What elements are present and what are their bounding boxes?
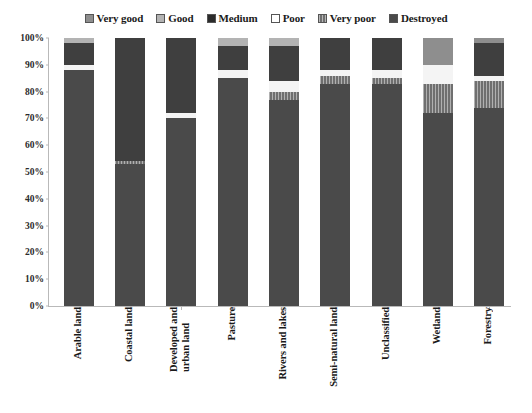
bar-segment-destroyed[interactable] (64, 70, 94, 306)
y-axis-tick-label: 50% (25, 167, 44, 177)
y-axis-tick-label: 60% (25, 140, 44, 150)
legend-item-verypoor[interactable]: Very poor (318, 13, 376, 24)
y-axis-tick-mark (46, 225, 49, 226)
y-axis-tick-mark (46, 172, 49, 173)
bar-segment-destroyed[interactable] (320, 84, 350, 306)
y-axis-tick-label: 100% (20, 33, 44, 43)
bar-segment-poor[interactable] (269, 81, 299, 92)
y-axis-tick-mark (46, 38, 49, 39)
x-axis-category-label: Semi-natural land (319, 307, 349, 387)
x-axis-category-text: Pasture (226, 307, 238, 341)
plot-area: 100%90%80%70%60%50%40%30%20%10%0% (48, 38, 511, 307)
x-axis-labels: Arable landCoastal landDeveloped and urb… (48, 307, 510, 413)
y-axis-tick-label: 90% (25, 60, 44, 70)
legend-label: Very poor (330, 13, 376, 24)
x-axis-category-text: Forestry (482, 307, 494, 345)
legend-item-medium[interactable]: Medium (207, 13, 258, 24)
y-axis-tick-mark (46, 252, 49, 253)
legend-swatch-poor-icon (271, 14, 280, 23)
bar-segment-destroyed[interactable] (115, 164, 145, 306)
bar-column[interactable] (218, 38, 248, 306)
legend-item-good[interactable]: Good (156, 13, 193, 24)
bar-segment-verypoor[interactable] (423, 84, 453, 113)
x-axis-category-label: Unclassified (371, 307, 401, 360)
bar-segment-destroyed[interactable] (423, 113, 453, 306)
legend-item-verygood[interactable]: Very good (85, 13, 144, 24)
legend-swatch-good-icon (156, 14, 165, 23)
bar-segment-verygood[interactable] (423, 38, 453, 65)
y-axis-tick-mark (46, 198, 49, 199)
legend-swatch-destroyed-icon (389, 14, 398, 23)
x-axis-category-text: Arable land (72, 307, 84, 359)
bar-segment-verypoor[interactable] (269, 92, 299, 100)
x-axis-category-label: Rivers and lakes (268, 307, 298, 380)
legend-item-destroyed[interactable]: Destroyed (389, 13, 448, 24)
legend-item-poor[interactable]: Poor (271, 13, 305, 24)
bar-column[interactable] (269, 38, 299, 306)
bar-column[interactable] (115, 38, 145, 306)
bar-column[interactable] (320, 38, 350, 306)
x-axis-category-label: Arable land (63, 307, 93, 359)
legend-label: Destroyed (401, 13, 448, 24)
x-axis-category-label: Wetland (422, 307, 452, 344)
chart-legend: Very goodGoodMediumPoorVery poorDestroye… (0, 13, 532, 24)
y-axis-tick-mark (46, 145, 49, 146)
bar-segment-destroyed[interactable] (166, 118, 196, 306)
x-axis-category-text: Developed and urban land (168, 307, 192, 372)
y-axis-tick-mark (46, 118, 49, 119)
y-axis-tick-label: 70% (25, 113, 44, 123)
bar-segment-medium[interactable] (218, 46, 248, 70)
bar-segment-poor[interactable] (372, 70, 402, 78)
y-axis-tick-mark (46, 279, 49, 280)
y-axis-tick-mark (46, 91, 49, 92)
bar-segment-medium[interactable] (320, 38, 350, 70)
y-axis-tick-mark (46, 64, 49, 65)
bar-segment-poor[interactable] (423, 65, 453, 84)
bar-segment-medium[interactable] (115, 38, 145, 161)
bar-segment-medium[interactable] (166, 38, 196, 113)
bar-segment-medium[interactable] (64, 43, 94, 64)
bar-segment-destroyed[interactable] (372, 84, 402, 306)
legend-label: Poor (283, 13, 305, 24)
bar-column[interactable] (166, 38, 196, 306)
bar-segment-poor[interactable] (218, 70, 248, 78)
y-axis-tick-label: 40% (25, 194, 44, 204)
bar-segment-good[interactable] (218, 38, 248, 46)
bar-column[interactable] (423, 38, 453, 306)
bar-segment-medium[interactable] (474, 43, 504, 75)
legend-swatch-medium-icon (207, 14, 216, 23)
y-axis-tick-label: 20% (25, 247, 44, 257)
legend-label: Medium (219, 13, 258, 24)
bar-segment-verypoor[interactable] (474, 81, 504, 108)
y-axis-tick-label: 80% (25, 87, 44, 97)
bar-segment-good[interactable] (269, 38, 299, 46)
x-axis-category-label: Forestry (473, 307, 503, 345)
x-axis-category-text: Semi-natural land (328, 307, 340, 387)
x-axis-category-label: Pasture (217, 307, 247, 341)
bar-segment-destroyed[interactable] (218, 78, 248, 306)
bar-segment-medium[interactable] (269, 46, 299, 81)
bar-segment-destroyed[interactable] (269, 100, 299, 306)
x-axis-category-label: Developed and urban land (165, 307, 195, 372)
x-axis-category-text: Rivers and lakes (277, 307, 289, 380)
bar-segment-destroyed[interactable] (474, 108, 504, 306)
x-axis-category-text: Unclassified (380, 307, 392, 360)
legend-swatch-verygood-icon (85, 14, 94, 23)
y-axis-tick-label: 10% (25, 274, 44, 284)
bar-column[interactable] (372, 38, 402, 306)
stacked-bar-chart: Very goodGoodMediumPoorVery poorDestroye… (0, 0, 532, 413)
x-axis-category-text: Coastal land (123, 307, 135, 362)
legend-label: Good (168, 13, 193, 24)
bar-segment-verypoor[interactable] (320, 76, 350, 84)
y-axis-tick-label: 30% (25, 221, 44, 231)
bar-column[interactable] (474, 38, 504, 306)
bar-column[interactable] (64, 38, 94, 306)
x-axis-category-text: Wetland (431, 307, 443, 344)
x-axis-category-label: Coastal land (114, 307, 144, 362)
bar-segment-medium[interactable] (372, 38, 402, 70)
legend-swatch-verypoor-icon (318, 14, 327, 23)
y-axis-tick-label: 0% (30, 301, 44, 311)
legend-label: Very good (97, 13, 144, 24)
